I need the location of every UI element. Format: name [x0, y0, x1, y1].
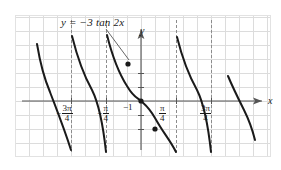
x-tick-label-neg-pi-4: −π4 — [97, 104, 109, 123]
point-origin — [138, 98, 143, 103]
y-axis-label: y — [140, 26, 144, 36]
x-tick-label-pi-4: π4 — [159, 104, 166, 123]
x-axis-label: x — [268, 96, 272, 106]
fraction-pi-4: π4 — [103, 104, 110, 123]
y-tick-label-neg-1: −1 — [123, 103, 133, 112]
point-neg-pi-8 — [125, 61, 130, 66]
fraction-3pi-4: 3π4 — [200, 104, 211, 123]
tangent-graph-figure: y = −3 tan 2x y x −3π4 −π4 −1 π4 3π4 — [0, 0, 281, 170]
fraction-pi-4: π4 — [159, 104, 166, 123]
fraction-3pi-4: 3π4 — [62, 104, 73, 123]
equation-annotation: y = −3 tan 2x — [61, 17, 124, 28]
point-pi-8 — [152, 126, 157, 131]
equation-text: y = −3 tan 2x — [61, 16, 124, 28]
x-tick-label-3pi-4: 3π4 — [200, 104, 211, 123]
x-tick-label-neg-3pi-4: −3π4 — [56, 104, 73, 123]
